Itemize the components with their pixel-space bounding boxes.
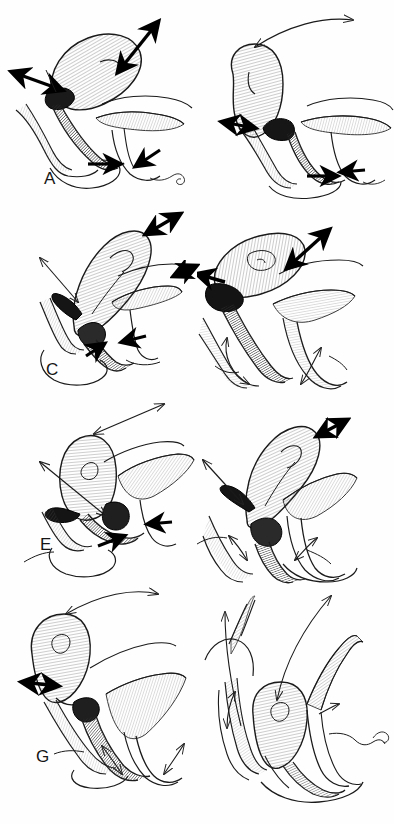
uterine-corpus-G [31, 614, 90, 705]
bladder-H [205, 596, 267, 780]
panel-label-G: G [36, 748, 50, 765]
panel-C: C [0, 206, 197, 396]
posterior-wall-arrow [136, 150, 160, 166]
fundus-sweep-arrow [255, 19, 353, 47]
panel-F: F [197, 396, 394, 586]
fundus-traction-arrow [146, 214, 180, 234]
panel-A: A [0, 0, 197, 206]
panel-D: D [197, 206, 394, 396]
panel-G: G [0, 586, 197, 791]
rectum-loop-arrow [164, 744, 184, 774]
figure-sheet: A [0, 0, 394, 824]
rectum-loop-arrow [295, 538, 317, 560]
panel-E: E [0, 396, 197, 586]
vaginal-canal-H [283, 762, 345, 797]
panel-E-illustration [0, 396, 197, 586]
panel-label-A: A [44, 170, 56, 187]
posterior-wall-arrow [341, 170, 365, 172]
rectal-base-line [329, 356, 347, 370]
panel-label-E: E [40, 536, 52, 553]
panel-B: B [197, 0, 394, 206]
rectum-H [307, 636, 389, 787]
fundus-sweep-arrow [94, 404, 164, 434]
panel-label-C: C [46, 361, 59, 378]
panel-B-illustration [197, 0, 394, 206]
lateral-traction-arrow [174, 266, 196, 276]
panel-C-margin-arrow [170, 260, 200, 284]
panel-C-illustration [0, 206, 197, 396]
panel-A-illustration [0, 0, 197, 206]
rectal-arrow [148, 522, 172, 524]
bladder-loop-arrow [229, 536, 247, 560]
bladder-F [197, 516, 253, 582]
panel-G-illustration [0, 586, 197, 791]
panel-D-illustration [197, 206, 394, 396]
vaginal-canal-C [84, 340, 134, 371]
uterine-corpus-C [73, 231, 151, 336]
panel-C-margin-arrow-svg [170, 260, 200, 284]
fundus-sweep-arrow [66, 592, 158, 614]
panel-F-illustration [197, 396, 394, 586]
fundus-traction-arrow [317, 420, 347, 436]
panel-H-illustration [197, 586, 394, 806]
rectum-A [96, 96, 192, 185]
vaginal-canal-F [255, 542, 305, 583]
cervix-elevation-arrow [203, 460, 243, 504]
panel-H: H [197, 586, 394, 806]
